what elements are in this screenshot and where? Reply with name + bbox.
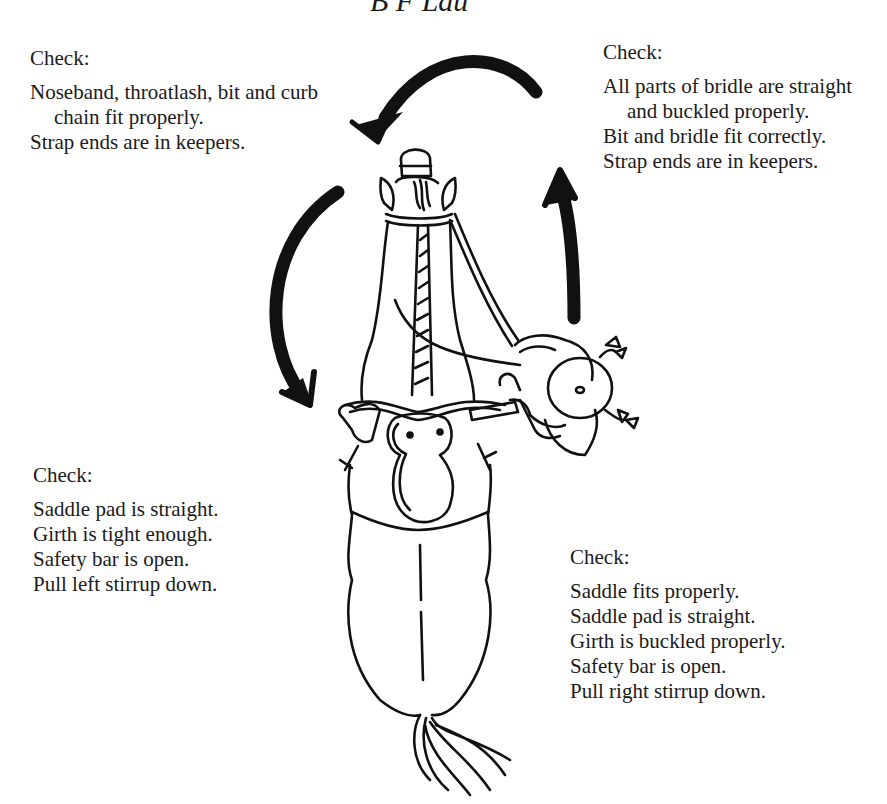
checklist-bridle-straight: Check: All parts of bridle are straight … [603, 40, 873, 174]
arrow-top-icon [352, 62, 536, 142]
checklist-item: Noseband, throatlash, bit and curb chain… [30, 80, 330, 130]
arrow-left-icon [276, 192, 338, 405]
checklist-item: Safety bar is open. [570, 654, 880, 679]
checklist-item: Pull left stirrup down. [33, 572, 323, 597]
checklist-item: Pull right stirrup down. [570, 679, 880, 704]
checklist-item: Strap ends are in keepers. [30, 130, 330, 155]
checklist-item: Saddle fits properly. [570, 579, 880, 604]
checklist-heading: Check: [570, 545, 880, 570]
checklist-bridle-fit: Check: Noseband, throatlash, bit and cur… [30, 46, 330, 155]
checklist-left-side: Check: Saddle pad is straight. Girth is … [33, 463, 323, 597]
checklist-item: Bit and bridle fit correctly. [603, 124, 873, 149]
checklist-item: Saddle pad is straight. [570, 604, 880, 629]
checklist-item: Strap ends are in keepers. [603, 149, 873, 174]
checklist-heading: Check: [30, 46, 330, 71]
horse-head-icon [361, 150, 520, 400]
checklist-item: Safety bar is open. [33, 547, 323, 572]
checklist-item: All parts of bridle are straight and buc… [603, 74, 873, 124]
checklist-item: Girth is tight enough. [33, 522, 323, 547]
checklist-item: Saddle pad is straight. [33, 497, 323, 522]
checklist-heading: Check: [33, 463, 323, 488]
saddle-icon [339, 402, 518, 522]
rider-icon [500, 335, 638, 455]
horse-body-icon [348, 465, 510, 795]
checklist-heading: Check: [603, 40, 873, 65]
checklist-right-side: Check: Saddle fits properly. Saddle pad … [570, 545, 880, 704]
checklist-item: Girth is buckled properly. [570, 629, 880, 654]
arrow-right-icon [545, 170, 575, 318]
